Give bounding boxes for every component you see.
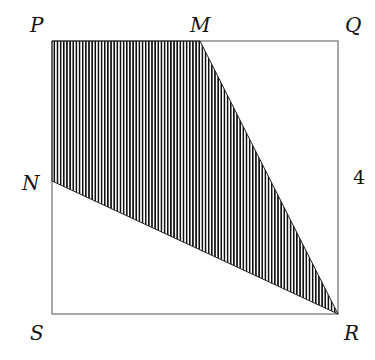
square-diagram: P M Q N 4 S R: [0, 0, 375, 360]
label-n: N: [21, 171, 41, 195]
label-s: S: [30, 321, 44, 345]
label-r: R: [343, 321, 359, 345]
label-m: M: [189, 13, 211, 37]
label-q: Q: [345, 13, 361, 37]
shaded-region-pmrn: [52, 41, 338, 314]
label-p: P: [29, 13, 44, 37]
side-length-label: 4: [353, 166, 365, 188]
